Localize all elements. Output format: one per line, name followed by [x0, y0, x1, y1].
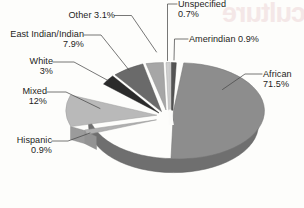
- leader-line-other: [115, 16, 157, 53]
- label-hispanic-name: Hispanic: [0, 135, 52, 145]
- label-mixed: Mixed 12%: [0, 86, 47, 107]
- label-african: African 71.5%: [263, 69, 304, 90]
- label-unspecified: Unspecified 0.7%: [178, 0, 250, 20]
- label-mixed-value: 12%: [0, 96, 47, 106]
- label-east-indian-name: East Indian/Indian: [0, 29, 84, 39]
- label-hispanic: Hispanic 0.9%: [0, 135, 52, 156]
- label-east-indian-value: 7.9%: [0, 39, 84, 49]
- label-white: White 3%: [0, 56, 53, 77]
- label-unspecified-value: 0.7%: [178, 9, 250, 19]
- slice-side-mixed: [71, 127, 85, 144]
- label-white-value: 3%: [0, 66, 53, 76]
- label-east-indian: East Indian/Indian 7.9%: [0, 29, 84, 50]
- leader-line-amerindian: [174, 39, 188, 60]
- label-unspecified-name: Unspecified: [178, 0, 250, 9]
- label-other: Other 3.1%: [14, 10, 115, 20]
- slice-top-unspecified: [166, 63, 170, 111]
- label-white-name: White: [0, 56, 53, 66]
- label-african-name: African: [263, 69, 304, 79]
- pie-chart-figure: culture: [0, 0, 304, 208]
- label-amerindian-text: Amerindian 0.9%: [189, 34, 259, 44]
- label-mixed-name: Mixed: [0, 86, 47, 96]
- label-hispanic-value: 0.9%: [0, 145, 52, 155]
- leader-line-white: [53, 62, 108, 81]
- label-other-text: Other 3.1%: [69, 10, 116, 20]
- label-african-value: 71.5%: [263, 79, 304, 89]
- label-amerindian: Amerindian 0.9%: [189, 34, 299, 44]
- leader-line-unspecified: [168, 4, 178, 61]
- leader-line-east-indian: [84, 35, 129, 70]
